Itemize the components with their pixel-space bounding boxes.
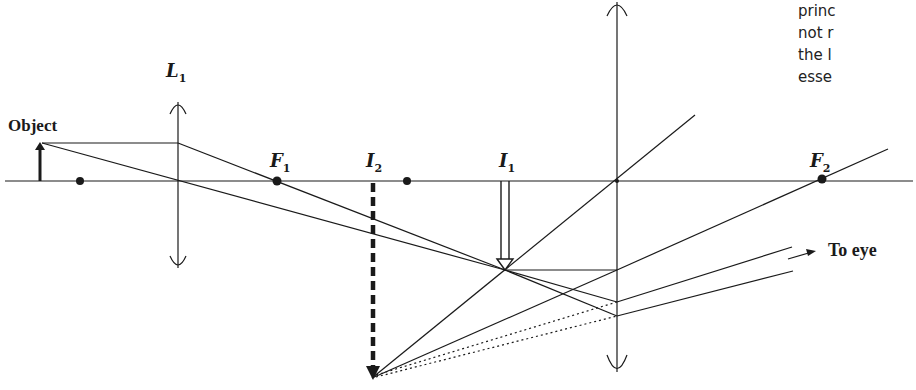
L1-label-sub: 1 [179, 72, 187, 85]
intermediate-image-I1-arrow [497, 181, 513, 270]
axis-point-left [76, 177, 84, 185]
I2-label-sub: 2 [374, 162, 382, 175]
L1-label: L1 [166, 60, 186, 85]
ray-refracted-through-F1 [178, 143, 505, 270]
F2-label: F2 [810, 150, 830, 175]
focal-point-F2 [818, 175, 827, 184]
L1-label-main: L [166, 60, 179, 81]
focal-point-F1 [273, 177, 282, 186]
dotted-extension-1 [376, 302, 617, 375]
F1-label: F1 [270, 150, 290, 175]
eyepiece-center [615, 179, 619, 183]
to-eye-arrow-head [806, 249, 816, 256]
caption-line: not r [798, 22, 836, 44]
ray-eyepiece-lower [372, 270, 617, 378]
F1-label-main: F [270, 150, 283, 171]
caption-line: princ [798, 0, 836, 22]
caption-line: esse [798, 66, 836, 88]
ray-I1-continue-1 [505, 270, 617, 302]
objective-lens-L1 [170, 102, 186, 268]
compound-microscope-ray-diagram [0, 0, 916, 390]
axis-point-right [403, 177, 411, 185]
F2-label-sub: 2 [823, 162, 831, 175]
F2-label-main: F [810, 150, 823, 171]
dotted-extension-2 [376, 316, 617, 377]
to-eye-label: To eye [828, 240, 877, 261]
caption-text-fragment: princ not r the l esse [798, 0, 836, 88]
I2-label: I2 [366, 150, 382, 175]
object-label: Object [8, 116, 57, 136]
I1-label: I1 [499, 150, 515, 175]
eyepiece-lens [607, 2, 627, 372]
I1-label-sub: 1 [507, 162, 515, 175]
F1-label-sub: 1 [283, 162, 291, 175]
caption-line: the l [798, 44, 836, 66]
